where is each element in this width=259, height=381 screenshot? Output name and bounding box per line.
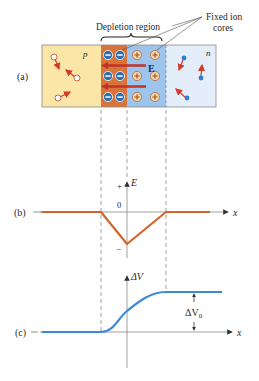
positive-ion-icon: [150, 92, 159, 101]
delta-v0-label: ΔV0: [185, 307, 203, 320]
positive-ion-icon: [132, 50, 141, 59]
minus-tick-label: −: [116, 244, 121, 254]
x-axis-label: x: [232, 207, 238, 218]
pn-junction-figure: (a) p n: [0, 0, 259, 381]
panel-a: (a) p n: [17, 12, 242, 107]
panel-c: (c) x ΔV ΔV0: [15, 271, 242, 368]
panel-b: (b) x E + 0 −: [14, 177, 238, 258]
p-region: [42, 45, 101, 107]
panel-a-label: (a): [17, 71, 28, 83]
positive-ion-icon: [132, 92, 141, 101]
electric-field-curve: [42, 212, 210, 244]
e-axis-label: E: [130, 177, 137, 188]
positive-ion-icon: [150, 50, 159, 59]
positive-ion-icon: [132, 71, 141, 80]
panel-c-label: (c): [15, 327, 26, 339]
depletion-region-label: Depletion region: [96, 22, 160, 32]
field-label: E: [148, 63, 155, 74]
negative-ion-icon: [103, 71, 112, 80]
delta-v-axis-label: ΔV: [130, 271, 145, 282]
leader-line: [172, 17, 202, 26]
negative-ion-icon: [103, 50, 112, 59]
x-axis-label: x: [236, 327, 242, 338]
guide-lines: [101, 110, 166, 333]
negative-ion-icon: [115, 92, 124, 101]
negative-ion-icon: [115, 71, 124, 80]
negative-ion-icon: [115, 50, 124, 59]
p-label: p: [82, 49, 88, 59]
negative-ion-icon: [103, 92, 112, 101]
fixed-ion-label-line2: cores: [213, 23, 233, 33]
fixed-ion-label-line1: Fixed ion: [206, 12, 242, 22]
n-label: n: [206, 48, 211, 58]
panel-b-label: (b): [14, 207, 26, 219]
plus-tick-label: +: [117, 181, 122, 191]
zero-tick-label: 0: [117, 200, 121, 210]
